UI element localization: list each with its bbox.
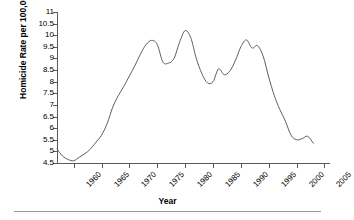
x-tick-label: 2005 <box>335 170 354 189</box>
x-tick-mark <box>241 164 242 168</box>
x-tick-mark <box>129 164 130 168</box>
footer-divider <box>14 211 321 212</box>
x-tick-mark <box>102 164 103 168</box>
x-axis-title: Year <box>0 196 335 206</box>
x-tick-mark <box>74 164 75 168</box>
x-tick-mark <box>185 164 186 168</box>
x-tick-mark <box>213 164 214 168</box>
series-line-homicide-rate <box>57 30 313 160</box>
x-tick-mark <box>297 164 298 168</box>
x-tick-mark <box>269 164 270 168</box>
x-tick-mark <box>324 164 325 168</box>
x-tick-mark <box>157 164 158 168</box>
